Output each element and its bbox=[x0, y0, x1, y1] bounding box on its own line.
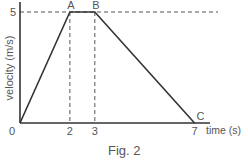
y-axis-label: velocity (m/s) bbox=[3, 36, 15, 101]
x-axis-label: time (s) bbox=[206, 124, 241, 136]
figure-caption: Fig. 2 bbox=[108, 143, 141, 158]
y-tick-label-5: 5 bbox=[10, 6, 16, 18]
point-label-A: A bbox=[67, 0, 75, 11]
x-tick-label-7: 7 bbox=[191, 125, 197, 137]
velocity-series-line bbox=[20, 12, 195, 123]
x-tick-label-2: 2 bbox=[67, 125, 73, 137]
x-tick-label-0: 0 bbox=[9, 125, 15, 137]
point-label-B: B bbox=[92, 0, 99, 11]
x-tick-label-3: 3 bbox=[92, 125, 98, 137]
velocity-time-chart: 02375 ABC velocity (m/s) time (s) Fig. 2 bbox=[0, 0, 248, 168]
point-label-C: C bbox=[197, 110, 205, 122]
